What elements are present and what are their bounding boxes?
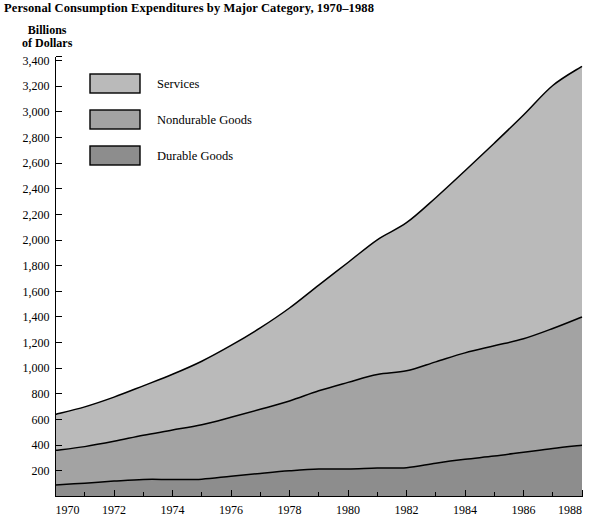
legend-swatch-nondurable-goods	[90, 110, 140, 129]
y-tick-label: 1,000	[23, 361, 50, 375]
x-tick-label: 1974	[161, 503, 185, 517]
y-tick-label: 2,600	[23, 156, 50, 170]
y-tick-label: 2,400	[23, 182, 50, 196]
x-tick-label: 1980	[336, 503, 360, 517]
y-tick-label: 2,200	[23, 208, 50, 222]
legend-label-nondurable-goods: Nondurable Goods	[157, 113, 252, 127]
chart-legend: ServicesNondurable GoodsDurable Goods	[90, 74, 252, 165]
y-tick-label: 1,400	[23, 310, 50, 324]
x-tick-label: 1972	[102, 503, 126, 517]
legend-swatch-durable-goods	[90, 146, 140, 165]
y-tick-label: 600	[32, 413, 50, 427]
y-tick-label: 1,200	[23, 336, 50, 350]
x-tick-label: 1970	[56, 503, 80, 517]
legend-swatch-services	[90, 74, 140, 93]
x-tick-label: 1976	[219, 503, 243, 517]
y-tick-label: 400	[32, 438, 50, 452]
stacked-area-chart: 2004006008001,0001,2001,4001,6001,8002,0…	[0, 0, 594, 528]
x-tick-label: 1978	[278, 503, 302, 517]
chart-areas	[56, 66, 583, 496]
y-tick-label: 3,400	[23, 54, 50, 68]
y-tick-label: 800	[32, 387, 50, 401]
x-tick-label: 1982	[395, 503, 419, 517]
y-tick-label: 3,000	[23, 105, 50, 119]
legend-label-services: Services	[157, 77, 199, 91]
x-tick-label: 1988	[558, 503, 582, 517]
y-tick-label: 200	[32, 464, 50, 478]
y-tick-label: 1,800	[23, 259, 50, 273]
x-tick-label: 1986	[512, 503, 536, 517]
y-tick-label: 3,200	[23, 79, 50, 93]
y-tick-label: 2,800	[23, 131, 50, 145]
y-tick-label: 1,600	[23, 285, 50, 299]
y-tick-label: 2,000	[23, 233, 50, 247]
legend-label-durable-goods: Durable Goods	[157, 149, 233, 163]
x-tick-label: 1984	[453, 503, 477, 517]
